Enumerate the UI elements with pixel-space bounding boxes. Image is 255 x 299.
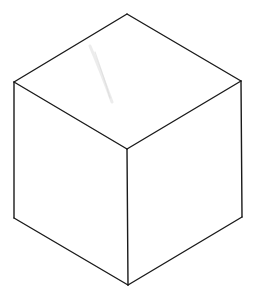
cube-diagram-canvas	[0, 0, 255, 299]
edge-center-bottom	[127, 149, 128, 285]
edge-right-vertical	[241, 81, 242, 217]
isometric-cube	[0, 0, 255, 299]
